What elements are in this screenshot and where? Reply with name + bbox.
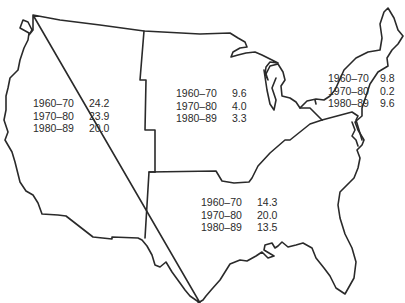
period-label: 1980–89 (328, 97, 380, 110)
value-label: 4.0 (232, 100, 247, 113)
us-regions-map (0, 0, 405, 303)
period-label: 1960–70 (176, 87, 232, 100)
midwest-northeast-border (300, 108, 322, 120)
period-label: 1980–89 (201, 221, 257, 234)
period-label: 1970–80 (33, 110, 89, 123)
value-label: 3.3 (232, 112, 247, 125)
data-row: 1970–804.0 (176, 100, 247, 113)
value-label: 20.0 (257, 209, 277, 222)
data-row: 1960–7024.2 (33, 97, 109, 110)
period-label: 1970–80 (176, 100, 232, 113)
northeast-inner-border (315, 100, 316, 104)
data-row: 1960–7014.3 (201, 196, 277, 209)
value-label: 0.2 (380, 85, 395, 98)
data-row: 1980–8913.5 (201, 221, 277, 234)
value-label: 13.5 (257, 221, 277, 234)
region-label-midwest: 1960–709.6 1970–804.0 1980–893.3 (176, 87, 247, 125)
midwest-south-border (149, 120, 322, 183)
region-label-south: 1960–7014.3 1970–8020.0 1980–8913.5 (201, 196, 277, 234)
us-outline (4, 8, 403, 303)
data-row: 1980–899.6 (328, 97, 395, 110)
data-row: 1960–709.8 (328, 72, 395, 85)
period-label: 1980–89 (33, 122, 89, 135)
region-label-northeast: 1960–709.8 1970–800.2 1980–899.6 (328, 72, 395, 110)
period-label: 1970–80 (201, 209, 257, 222)
value-label: 20.0 (89, 122, 109, 135)
period-label: 1980–89 (176, 112, 232, 125)
data-row: 1980–893.3 (176, 112, 247, 125)
period-label: 1970–80 (328, 85, 380, 98)
period-label: 1960–70 (201, 196, 257, 209)
period-label: 1960–70 (33, 97, 89, 110)
value-label: 9.6 (380, 97, 395, 110)
west-south-border (145, 172, 155, 238)
value-label: 9.8 (380, 72, 395, 85)
period-label: 1960–70 (328, 72, 380, 85)
region-label-west: 1960–7024.2 1970–8023.9 1980–8920.0 (33, 97, 109, 135)
value-label: 24.2 (89, 97, 109, 110)
data-row: 1970–8020.0 (201, 209, 277, 222)
value-label: 14.3 (257, 196, 277, 209)
value-label: 23.9 (89, 110, 109, 123)
data-row: 1980–8920.0 (33, 122, 109, 135)
data-row: 1970–8023.9 (33, 110, 109, 123)
data-row: 1970–800.2 (328, 85, 395, 98)
data-row: 1960–709.6 (176, 87, 247, 100)
value-label: 9.6 (232, 87, 247, 100)
west-midwest-border (140, 31, 155, 172)
